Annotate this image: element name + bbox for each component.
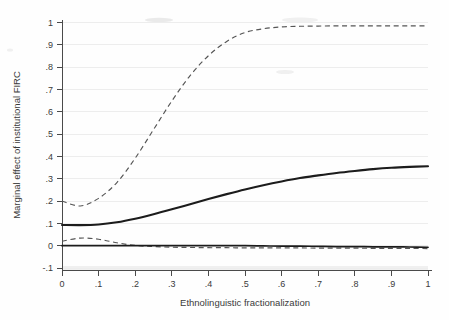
x-tick-label: .8 [351,279,359,289]
chart-canvas: 1 .9 .8 .7 .6 .5 .4 .3 .2 .1 0 -.1 [0,0,449,320]
x-axis-title: Ethnolinguistic fractionalization [180,297,310,308]
marginal-effect-chart: 1 .9 .8 .7 .6 .5 .4 .3 .2 .1 0 -.1 [0,0,449,320]
y-tick-label: .1 [45,219,53,229]
y-tick-label: .9 [45,40,53,50]
x-tick-label: .5 [241,279,249,289]
x-tick-label: .1 [95,279,103,289]
y-axis-title: Marginal effect of institutional FIRC [11,71,22,219]
y-tick-label: -.1 [42,263,53,273]
x-tick-label: .7 [314,279,322,289]
y-tick-label: .7 [45,85,53,95]
y-tick-label: .8 [45,62,53,72]
x-tick-label: .9 [388,279,396,289]
y-tick-label: .4 [45,152,53,162]
y-tick-label: .5 [45,129,53,139]
x-tick-label: .2 [131,279,139,289]
y-tick-label: .6 [45,107,53,117]
x-tick-label: .4 [205,279,213,289]
x-tick-label: 0 [59,279,64,289]
y-tick-label: .2 [45,196,53,206]
y-tick-label: .3 [45,174,53,184]
x-tick-label: .3 [168,279,176,289]
y-tick-label: 1 [48,18,53,28]
x-tick-label: .6 [278,279,286,289]
chart-background [0,0,449,320]
x-tick-label: 1 [425,279,430,289]
y-tick-label: 0 [48,241,53,251]
